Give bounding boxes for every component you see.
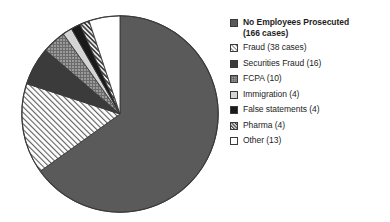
legend-swatch-icon <box>230 60 238 68</box>
legend-item-label: Securities Fraud (16) <box>243 58 321 69</box>
pie-svg <box>20 14 220 214</box>
legend-item[interactable]: FCPA (10) <box>230 73 388 84</box>
pie-chart-graphic <box>20 14 220 214</box>
legend-swatch-icon <box>230 75 238 83</box>
legend-item-label: False statements (4) <box>243 104 319 115</box>
legend-item[interactable]: Securities Fraud (16) <box>230 58 388 69</box>
pie-chart-figure: No Employees Prosecuted (166 cases)Fraud… <box>0 0 390 222</box>
legend-swatch-icon <box>230 44 238 52</box>
legend: No Employees Prosecuted (166 cases)Fraud… <box>230 17 388 151</box>
legend-swatch-icon <box>230 19 238 27</box>
legend-item[interactable]: Other (13) <box>230 135 388 146</box>
legend-item[interactable]: Immigration (4) <box>230 89 388 100</box>
legend-item-label: No Employees Prosecuted (166 cases) <box>243 17 349 38</box>
legend-item-label: FCPA (10) <box>243 73 282 84</box>
legend-item[interactable]: No Employees Prosecuted (166 cases) <box>230 17 388 38</box>
legend-swatch-icon <box>230 91 238 99</box>
legend-item[interactable]: Fraud (38 cases) <box>230 42 388 53</box>
legend-item-label: Immigration (4) <box>243 89 299 100</box>
legend-swatch-icon <box>230 122 238 130</box>
legend-swatch-icon <box>230 137 238 145</box>
legend-item-label: Fraud (38 cases) <box>243 42 306 53</box>
legend-item-label: Pharma (4) <box>243 120 285 131</box>
legend-item-label: Other (13) <box>243 135 281 146</box>
legend-item[interactable]: Pharma (4) <box>230 120 388 131</box>
legend-item[interactable]: False statements (4) <box>230 104 388 115</box>
pie-slice-group <box>22 16 218 212</box>
legend-swatch-icon <box>230 106 238 114</box>
